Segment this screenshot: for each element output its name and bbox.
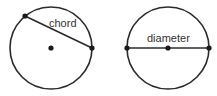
diameter-endpoint-left: [124, 45, 129, 50]
chord-endpoint-right: [89, 45, 94, 50]
diameter-circle-center: [165, 45, 170, 50]
diameter-endpoint-right: [206, 45, 211, 50]
chord-diagram: chord: [10, 7, 95, 89]
chord-circle-center: [48, 45, 53, 50]
chord-label: chord: [49, 17, 77, 29]
chord-endpoint-left: [22, 13, 27, 18]
diameter-diagram: diameter: [124, 7, 211, 89]
circle-diagrams: chord diameter: [0, 0, 217, 96]
diameter-label: diameter: [147, 32, 190, 44]
